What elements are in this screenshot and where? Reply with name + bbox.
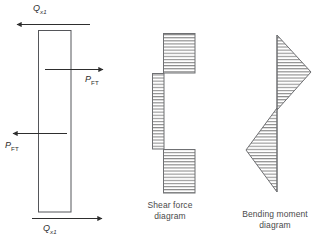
bending-moment-diagram: [246, 35, 311, 192]
shear-force-diagram: [153, 34, 196, 194]
caption-shear-force-diagram: Shear force diagram: [133, 200, 207, 221]
caption-bending-moment-diagram: Bending moment diagram: [223, 209, 327, 230]
member-group: [39, 31, 72, 213]
label-p-left: PFT: [5, 140, 19, 152]
shear-block-middle: [153, 74, 165, 150]
vertical-member: [39, 31, 72, 213]
moment-triangle-upper: [277, 35, 311, 110]
moment-triangle-lower: [246, 108, 277, 192]
shear-block-bottom: [164, 150, 196, 194]
label-q-bottom: Qx1: [43, 223, 57, 235]
shear-block-top: [164, 34, 196, 74]
label-q-top: Qx1: [33, 3, 47, 15]
label-p-right: PFT: [85, 74, 99, 86]
